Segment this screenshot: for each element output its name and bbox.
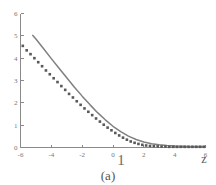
chart-plot: -6-4-202460123456 z 1 (a)	[0, 0, 216, 185]
data-point-marker	[191, 146, 194, 149]
data-point-marker	[87, 110, 90, 113]
data-point-marker	[137, 143, 140, 146]
data-point-marker	[176, 146, 179, 149]
data-series	[22, 35, 206, 148]
data-point-marker	[149, 145, 152, 148]
x-tick-label: -6	[18, 151, 24, 159]
data-point-marker	[64, 89, 67, 92]
data-point-marker	[72, 96, 75, 99]
data-point-marker	[153, 145, 156, 148]
x-tick-label: -4	[48, 151, 54, 159]
figure-container: -6-4-202460123456 z 1 (a)	[0, 0, 216, 185]
y-tick-label: 0	[14, 144, 18, 152]
data-point-marker	[156, 145, 159, 148]
data-point-marker	[133, 142, 136, 145]
data-point-marker	[141, 144, 144, 147]
data-point-marker	[164, 145, 167, 148]
x-tick-label: 0	[111, 151, 115, 159]
data-point-marker	[37, 61, 40, 64]
data-point-marker	[102, 123, 105, 126]
series-dotted-markers	[22, 45, 206, 149]
axis-ticks	[21, 14, 206, 148]
data-point-marker	[79, 104, 82, 107]
data-point-marker	[41, 65, 44, 68]
data-point-marker	[160, 145, 163, 148]
data-point-marker	[25, 49, 28, 52]
x-tick-label: 2	[142, 151, 146, 159]
y-tick-label: 3	[14, 77, 18, 85]
data-point-marker	[52, 77, 55, 80]
data-point-marker	[83, 107, 86, 110]
data-point-marker	[145, 144, 148, 147]
data-point-marker	[122, 136, 125, 139]
data-point-marker	[187, 146, 190, 149]
data-point-marker	[68, 93, 71, 96]
data-point-marker	[99, 120, 102, 123]
data-point-marker	[172, 146, 175, 149]
y-tick-label: 2	[14, 99, 18, 107]
axes	[21, 14, 206, 148]
y-tick-label: 5	[14, 32, 18, 40]
data-point-marker	[33, 57, 36, 60]
data-point-marker	[195, 146, 198, 149]
data-point-marker	[203, 146, 206, 149]
y-tick-label: 6	[14, 10, 18, 18]
data-point-marker	[183, 146, 186, 149]
data-point-marker	[118, 134, 121, 137]
data-point-marker	[168, 146, 171, 149]
data-point-marker	[48, 73, 51, 76]
data-point-marker	[95, 117, 98, 120]
data-point-marker	[60, 85, 63, 88]
data-point-marker	[22, 45, 25, 48]
data-point-marker	[29, 53, 32, 56]
data-point-marker	[45, 69, 48, 72]
stray-one-glyph: 1	[117, 152, 125, 168]
x-tick-label: 4	[173, 151, 177, 159]
figure-caption: (a)	[101, 168, 115, 183]
series-solid-curve	[33, 35, 206, 146]
y-tick-label: 4	[14, 55, 18, 63]
data-point-marker	[199, 146, 202, 149]
data-point-marker	[180, 146, 183, 149]
data-point-marker	[129, 140, 132, 143]
data-point-marker	[114, 132, 117, 135]
y-tick-label: 1	[14, 122, 18, 130]
x-tick-label: -2	[79, 151, 85, 159]
data-point-marker	[56, 81, 59, 84]
axis-tick-labels: -6-4-202460123456	[14, 10, 208, 158]
data-point-marker	[106, 126, 109, 129]
data-point-marker	[91, 114, 94, 117]
data-point-marker	[75, 100, 78, 103]
data-point-marker	[126, 138, 129, 141]
x-axis-label: z	[201, 152, 206, 166]
data-point-marker	[110, 129, 113, 132]
